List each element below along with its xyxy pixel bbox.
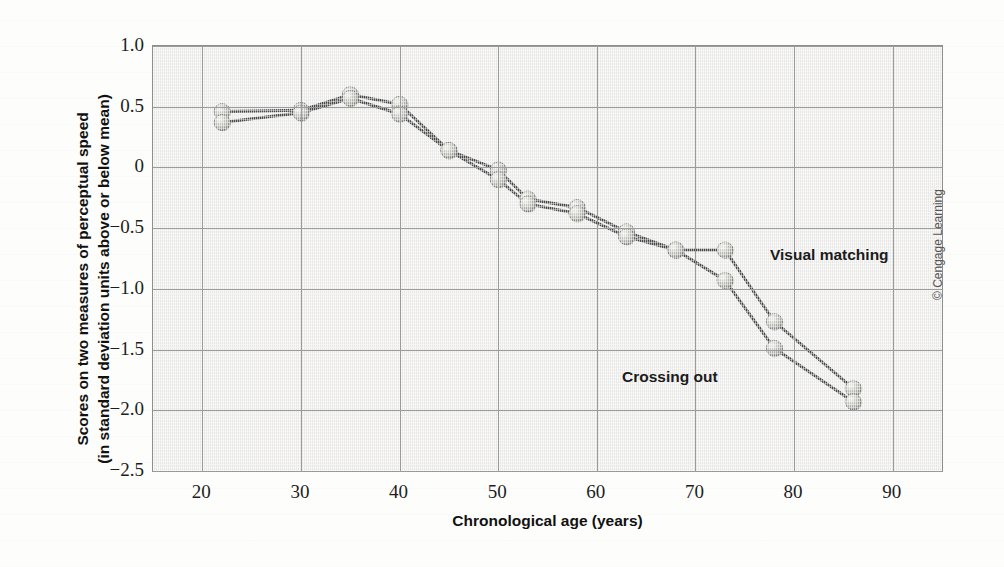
copyright-credit: © Cengage Learning: [931, 189, 945, 300]
data-point-marker: [717, 242, 734, 259]
grid-line-horizontal: [153, 471, 942, 472]
x-axis-tick-label: 50: [467, 481, 527, 503]
y-axis-title-line-2: (in standard deviation units above or be…: [94, 64, 115, 494]
x-axis-tick-labels: 2030405060708090: [152, 481, 943, 509]
x-axis-tick-label: 80: [763, 481, 823, 503]
grid-line-vertical: [202, 46, 203, 471]
x-axis-tick-label: 30: [270, 481, 330, 503]
grid-line-horizontal: [153, 167, 942, 168]
grid-line-horizontal: [153, 350, 942, 351]
data-point-marker: [717, 272, 734, 289]
y-axis-title: Scores on two measures of perceptual spe…: [73, 64, 115, 494]
x-axis-tick-label: 60: [566, 481, 626, 503]
grid-line-vertical: [498, 46, 499, 471]
y-axis-tick-label: 1.0: [104, 34, 144, 56]
data-point-marker: [441, 142, 458, 159]
grid-line-vertical: [597, 46, 598, 471]
grid-line-horizontal: [153, 410, 942, 411]
series-polylines: [222, 95, 853, 402]
x-axis-tick-label: 90: [862, 481, 922, 503]
grid-line-horizontal: [153, 107, 942, 108]
grid-line-horizontal: [153, 228, 942, 229]
grid-line-vertical: [695, 46, 696, 471]
x-axis-tick-label: 20: [171, 481, 231, 503]
grid-line-horizontal: [153, 289, 942, 290]
grid-line-vertical: [893, 46, 894, 471]
x-axis-tick-label: 70: [664, 481, 724, 503]
series-label-crossing-out: Crossing out: [622, 368, 718, 386]
data-point-marker: [766, 314, 783, 331]
x-axis-title: Chronological age (years): [152, 512, 943, 530]
series-markers: [214, 87, 862, 411]
x-axis-tick-label: 40: [369, 481, 429, 503]
y-axis-title-line-1: Scores on two measures of perceptual spe…: [73, 64, 94, 494]
series-line-crossing-out: [222, 98, 853, 402]
data-point-marker: [845, 394, 862, 411]
grid-line-vertical: [400, 46, 401, 471]
perceptual-speed-line-chart: 1.00.50−0.5−1.0−1.5−2.0−2.5 Scores on tw…: [0, 0, 1004, 567]
series-label-visual-matching: Visual matching: [770, 246, 889, 264]
series-line-visual-matching: [222, 95, 853, 389]
grid-line-horizontal: [153, 46, 942, 47]
plot-area: Visual matching Crossing out: [152, 45, 943, 472]
grid-line-vertical: [301, 46, 302, 471]
data-point-marker: [668, 242, 685, 259]
